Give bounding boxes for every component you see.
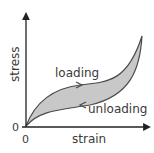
hysteresis-diagram: stress strain 0 0 loading unloading xyxy=(0,0,154,153)
x-origin-label: 0 xyxy=(22,133,29,146)
y-origin-label: 0 xyxy=(12,121,19,134)
unloading-label: unloading xyxy=(88,102,147,116)
x-axis-label: strain xyxy=(72,132,106,146)
y-axis-label: stress xyxy=(8,46,22,82)
loading-label: loading xyxy=(55,66,99,80)
